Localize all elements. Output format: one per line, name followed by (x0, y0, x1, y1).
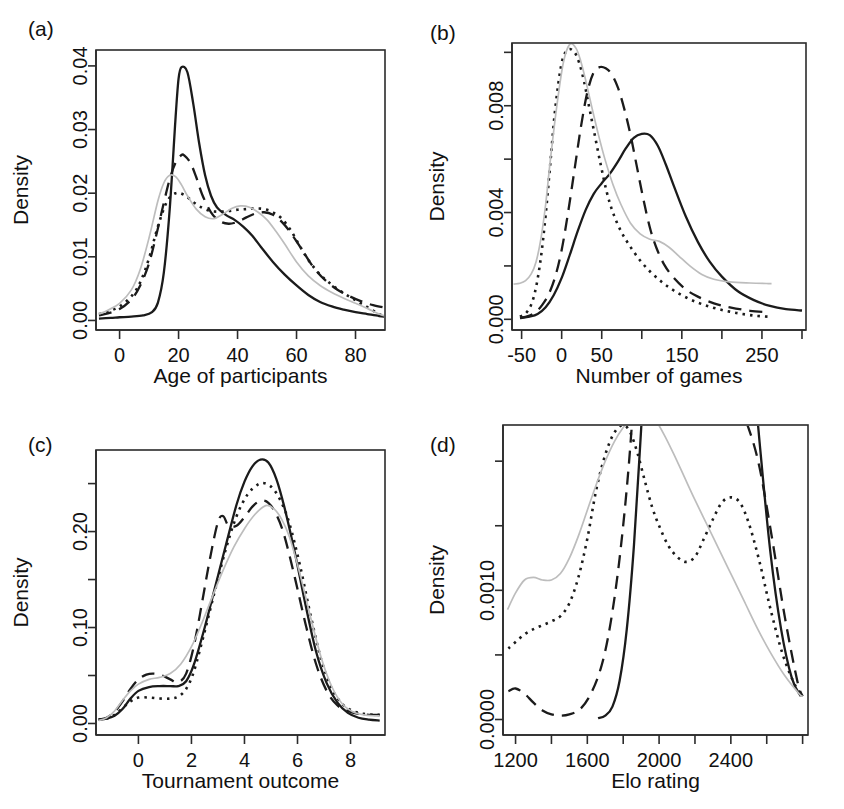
y-axis-title: Density (9, 154, 32, 225)
x-tick-label: 6 (292, 749, 303, 771)
density-curve-gray (507, 410, 802, 696)
x-tick-label: 2000 (637, 749, 682, 771)
curves-group (507, 405, 802, 718)
x-tick-label: 80 (344, 344, 366, 366)
y-tick-label: 0.02 (69, 174, 91, 213)
panel-c-svg: (c)0.000.100.2002468DensityTournament ou… (0, 405, 422, 809)
x-tick-label: -50 (507, 344, 536, 366)
density-curve-solid (598, 405, 801, 718)
x-tick-label: 8 (345, 749, 356, 771)
y-axis-title: Density (425, 544, 448, 615)
y-tick-label: 0.0010 (476, 560, 498, 621)
panel-a-svg: (a)0.000.010.020.030.04020406080DensityA… (0, 0, 422, 405)
y-tick-label: 0.0000 (476, 689, 498, 750)
y-tick-label: 0.03 (69, 110, 91, 149)
density-plot-figure: (a)0.000.010.020.030.04020406080DensityA… (0, 0, 844, 809)
x-tick-label: 20 (167, 344, 189, 366)
x-axis-title: Age of participants (154, 364, 328, 387)
panel-d-svg: (d)0.00000.00101200160020002400DensityEl… (422, 405, 844, 809)
density-curve-dotted (520, 49, 768, 317)
x-tick-label: 4 (239, 749, 250, 771)
y-tick-label: 0.20 (69, 512, 91, 551)
y-tick-label: 0.00 (69, 301, 91, 340)
y-tick-label: 0.000 (485, 294, 507, 344)
y-axis-title: Density (425, 151, 448, 222)
x-axis-title: Number of games (576, 364, 743, 387)
x-tick-label: 2 (186, 749, 197, 771)
panel-b-svg: (b)0.0000.0040.008-50050150250DensityNum… (422, 0, 844, 405)
x-tick-label: 50 (591, 344, 613, 366)
panel-label: (c) (28, 433, 53, 456)
density-curve-solid (99, 67, 385, 319)
panel-label: (a) (28, 17, 54, 40)
curves-group (99, 67, 385, 319)
panel-a: (a)0.000.010.020.030.04020406080DensityA… (0, 0, 422, 405)
density-curve-dotted (99, 483, 380, 720)
x-axis-title: Elo rating (611, 769, 700, 792)
x-tick-label: 150 (665, 344, 698, 366)
plot-frame (512, 43, 806, 330)
y-tick-label: 0.008 (485, 81, 507, 131)
x-tick-label: 1200 (493, 749, 538, 771)
panel-label: (d) (430, 433, 456, 456)
x-tick-label: 0 (133, 749, 144, 771)
panel-c: (c)0.000.100.2002468DensityTournament ou… (0, 405, 422, 809)
y-tick-label: 0.004 (485, 187, 507, 237)
curves-group (99, 459, 380, 720)
density-curve-gray (514, 44, 772, 285)
x-tick-label: 250 (745, 344, 778, 366)
density-curve-solid (99, 459, 380, 720)
panel-label: (b) (430, 21, 456, 44)
y-tick-label: 0.01 (69, 237, 91, 276)
x-tick-label: 1600 (565, 749, 610, 771)
x-tick-label: 60 (285, 344, 307, 366)
panel-d: (d)0.00000.00101200160020002400DensityEl… (422, 405, 844, 809)
x-tick-label: 2400 (709, 749, 754, 771)
curves-group (514, 44, 802, 318)
x-tick-label: 0 (556, 344, 567, 366)
density-curve-gray (99, 175, 385, 316)
y-tick-label: 0.00 (69, 704, 91, 743)
y-tick-label: 0.04 (69, 46, 91, 85)
y-tick-label: 0.10 (69, 608, 91, 647)
density-curve-solid (520, 133, 802, 318)
panel-b: (b)0.0000.0040.008-50050150250DensityNum… (422, 0, 844, 405)
density-curve-dashed (99, 501, 380, 720)
x-tick-label: 40 (226, 344, 248, 366)
density-curve-gray (99, 505, 380, 720)
x-tick-label: 0 (114, 344, 125, 366)
density-curve-dashed (508, 405, 802, 716)
x-axis-title: Tournament outcome (142, 769, 339, 792)
y-axis-title: Density (9, 557, 32, 628)
